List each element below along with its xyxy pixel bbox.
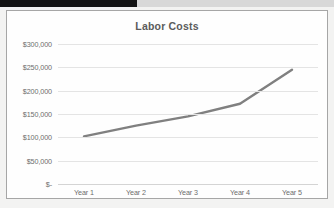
top-gray-strip: [137, 0, 334, 7]
plot-area: [58, 44, 318, 184]
y-axis-tick-label: $300,000: [23, 40, 52, 49]
x-axis-tick-label: Year 4: [230, 188, 250, 197]
top-black-bar: [0, 0, 137, 7]
y-axis-tick-label: $-: [46, 180, 52, 189]
chart-container[interactable]: Labor Costs $300,000$250,000$200,000$150…: [6, 10, 328, 199]
gridline: [58, 114, 318, 115]
y-axis-tick-label: $100,000: [23, 133, 52, 142]
x-axis-tick-label: Year 3: [178, 188, 198, 197]
gridline: [58, 184, 318, 185]
x-axis-tick-label: Year 1: [74, 188, 94, 197]
y-axis-tick-label: $150,000: [23, 110, 52, 119]
x-axis: Year 1Year 2Year 3Year 4Year 5: [58, 188, 318, 202]
y-axis-tick-label: $200,000: [23, 86, 52, 95]
y-axis: $300,000$250,000$200,000$150,000$100,000…: [7, 44, 56, 184]
gridline: [58, 137, 318, 138]
gridline: [58, 161, 318, 162]
chart-title: Labor Costs: [7, 20, 327, 32]
gridline: [58, 91, 318, 92]
gridline: [58, 67, 318, 68]
x-axis-tick-label: Year 5: [282, 188, 302, 197]
y-axis-tick-label: $250,000: [23, 63, 52, 72]
y-axis-tick-label: $50,000: [27, 156, 52, 165]
gridline: [58, 44, 318, 45]
x-axis-tick-label: Year 2: [126, 188, 146, 197]
line-series-labor-costs: [84, 70, 292, 137]
